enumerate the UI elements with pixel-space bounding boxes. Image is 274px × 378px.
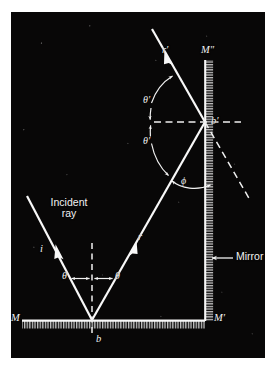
reflected-ray <box>92 122 205 320</box>
bottom-mirror <box>22 321 205 329</box>
angle-theta-prime-upper-arc <box>152 76 173 103</box>
second-reflected-ray <box>152 29 205 122</box>
incident-ray-arrowhead <box>54 244 63 259</box>
angle-theta-prime-upper-inner-arrow <box>150 108 151 120</box>
reflected-ray-arrowhead <box>128 242 137 257</box>
angle-theta-prime-lower-arc <box>152 144 169 176</box>
incident-ray <box>27 196 92 320</box>
vertical-mirror <box>205 60 213 321</box>
figure-root: Incident ray i r r′ θ θ θ′ θ′ ϕ b′ b M M… <box>0 0 274 378</box>
second-reflected-ray-arrowhead <box>164 51 173 66</box>
optics-diagram <box>11 12 265 358</box>
figure-plate: Incident ray i r r′ θ θ θ′ θ′ ϕ b′ b M M… <box>11 12 265 358</box>
